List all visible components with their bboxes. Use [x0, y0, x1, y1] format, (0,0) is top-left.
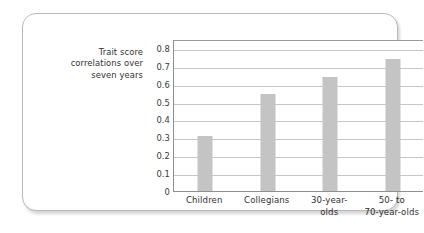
y-tick-label: 0.6 [144, 80, 170, 90]
y-tick-label: 0.5 [144, 98, 170, 108]
y-tick-label: 0.8 [144, 44, 170, 54]
x-category-label-children: Children [186, 195, 223, 207]
y-tick-label: 0.2 [144, 151, 170, 161]
y-axis-caption-line-1: Trait score [33, 47, 143, 58]
y-axis-caption-line-3: seven years [33, 70, 143, 81]
plot-wrapper: 0.8 0.7 0.6 0.5 0.4 0.3 0.2 0.1 0 [144, 40, 424, 195]
y-tick-label: 0 [144, 187, 170, 197]
y-axis-caption: Trait score correlations over seven year… [33, 47, 143, 81]
plot-area [173, 40, 423, 192]
x-category-label-50-to-70-year-olds: 50- to 70-year-olds [364, 195, 419, 218]
x-axis-category-labels: Children Collegians 30-year- olds 50- to… [173, 195, 424, 233]
y-axis-caption-line-2: correlations over [33, 58, 143, 69]
bar [323, 77, 338, 191]
y-axis-tick-labels: 0.8 0.7 0.6 0.5 0.4 0.3 0.2 0.1 0 [144, 40, 170, 195]
x-category-label-collegians: Collegians [244, 195, 289, 207]
bar [385, 59, 400, 191]
x-category-label-30-year-olds: 30-year- olds [311, 195, 347, 218]
y-tick-label: 0.3 [144, 133, 170, 143]
y-tick-label: 0.1 [144, 169, 170, 179]
y-tick-label: 0.4 [144, 115, 170, 125]
bar [260, 94, 275, 191]
y-tick-label: 0.7 [144, 62, 170, 72]
chart-card: Trait score correlations over seven year… [22, 13, 398, 211]
bar [198, 136, 213, 191]
bar-series [174, 41, 423, 191]
